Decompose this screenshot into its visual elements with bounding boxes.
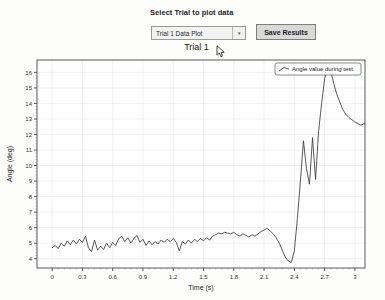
svg-text:6: 6 xyxy=(29,225,33,231)
svg-text:7: 7 xyxy=(29,209,33,215)
svg-text:1.2: 1.2 xyxy=(169,274,178,280)
trial-select-value: Trial 1 Data Plot xyxy=(152,30,232,37)
svg-text:4: 4 xyxy=(29,256,33,262)
svg-text:0.6: 0.6 xyxy=(109,274,118,280)
svg-text:Time (s): Time (s) xyxy=(188,284,213,292)
svg-text:2.4: 2.4 xyxy=(290,274,299,280)
svg-text:8: 8 xyxy=(29,194,33,200)
svg-text:9: 9 xyxy=(29,178,33,184)
svg-text:2.1: 2.1 xyxy=(260,274,269,280)
svg-text:3: 3 xyxy=(353,274,357,280)
chevron-down-icon: ▾ xyxy=(232,27,245,39)
svg-text:Angle value during test: Angle value during test xyxy=(292,66,353,72)
svg-text:10: 10 xyxy=(25,163,32,169)
trial-select-dropdown[interactable]: Trial 1 Data Plot ▾ xyxy=(151,26,246,40)
svg-text:14: 14 xyxy=(25,101,32,107)
svg-text:15: 15 xyxy=(25,85,32,91)
select-trial-label: Select Trial to plot data xyxy=(150,8,233,17)
svg-text:1.5: 1.5 xyxy=(199,274,208,280)
svg-text:12: 12 xyxy=(25,132,32,138)
angle-vs-time-plot: 4567891011121314151600.30.60.91.21.51.82… xyxy=(0,42,385,300)
svg-text:5: 5 xyxy=(29,240,33,246)
control-panel: Select Trial to plot data Trial 1 Data P… xyxy=(0,0,385,46)
svg-text:16: 16 xyxy=(25,70,32,76)
svg-text:Angle (deg): Angle (deg) xyxy=(6,146,14,182)
chart-region: Trial 1 4567891011121314151600.30.60.91.… xyxy=(0,42,385,300)
save-results-button[interactable]: Save Results xyxy=(256,24,316,40)
svg-text:2.7: 2.7 xyxy=(320,274,329,280)
svg-text:0.3: 0.3 xyxy=(78,274,87,280)
svg-text:13: 13 xyxy=(25,116,32,122)
svg-text:11: 11 xyxy=(26,147,33,153)
chart-legend: Angle value during test xyxy=(275,63,361,75)
svg-text:1.8: 1.8 xyxy=(230,274,239,280)
svg-text:0: 0 xyxy=(50,274,54,280)
svg-text:0.9: 0.9 xyxy=(139,274,148,280)
